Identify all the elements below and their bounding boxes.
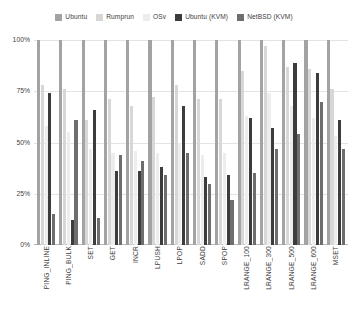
bar[interactable] [230, 200, 233, 245]
bar-group [236, 40, 258, 245]
legend-item[interactable]: Ubuntu [55, 13, 87, 21]
bar-group [57, 40, 79, 245]
bar[interactable] [312, 118, 315, 245]
bar[interactable] [48, 93, 51, 245]
bar[interactable] [82, 40, 85, 245]
bar[interactable] [93, 110, 96, 245]
x-axis-tick-label: LRANGE_100 [243, 246, 250, 290]
bar[interactable] [253, 173, 256, 245]
bar[interactable] [164, 175, 167, 245]
bar[interactable] [175, 85, 178, 245]
bar[interactable] [208, 184, 211, 246]
bar[interactable] [74, 120, 77, 245]
legend-swatch-icon [175, 14, 182, 21]
bar[interactable] [293, 63, 296, 245]
bar[interactable] [297, 134, 300, 245]
bar[interactable] [89, 149, 92, 245]
legend-item[interactable]: NetBSD (KVM) [237, 13, 293, 21]
legend-item[interactable]: OSv [143, 13, 166, 21]
bar[interactable] [201, 155, 204, 245]
bar[interactable] [264, 46, 267, 245]
bar-group [35, 40, 57, 245]
x-axis-tick-label: GET [109, 246, 116, 260]
bar[interactable] [215, 40, 218, 245]
bar[interactable] [316, 73, 319, 245]
bar-group [258, 40, 280, 245]
x-axis-tick: LRANGE_100 [236, 246, 258, 313]
x-axis-tick-label: PING_INLINE [43, 246, 50, 289]
bar[interactable] [178, 143, 181, 246]
legend-swatch-icon [55, 14, 62, 21]
x-axis-tick: LPUSH [146, 246, 168, 313]
bar[interactable] [71, 220, 74, 245]
bar[interactable] [223, 153, 226, 245]
bar[interactable] [52, 214, 55, 245]
bar[interactable] [130, 106, 133, 245]
bar[interactable] [152, 97, 155, 245]
bar-group [124, 40, 146, 245]
bar[interactable] [286, 67, 289, 245]
bar-groups [34, 40, 348, 245]
legend-item[interactable]: Ubuntu (KVM) [175, 13, 228, 21]
bar[interactable] [308, 69, 311, 245]
bar[interactable] [320, 102, 323, 246]
bar[interactable] [134, 151, 137, 245]
bar[interactable] [245, 116, 248, 245]
bar[interactable] [267, 93, 270, 245]
bar[interactable] [271, 128, 274, 245]
chart-legend: UbuntuRumprunOSvUbuntu (KVM)NetBSD (KVM) [0, 13, 348, 21]
bar[interactable] [104, 40, 107, 245]
bar[interactable] [182, 106, 185, 245]
bar[interactable] [197, 99, 200, 245]
x-axis-tick-label: MSET [332, 246, 339, 265]
bar[interactable] [304, 40, 307, 245]
bar[interactable] [59, 40, 62, 245]
bar-chart: UbuntuRumprunOSvUbuntu (KVM)NetBSD (KVM)… [0, 0, 348, 313]
legend-swatch-icon [96, 14, 103, 21]
bar[interactable] [342, 149, 345, 245]
bar[interactable] [111, 153, 114, 245]
bar[interactable] [238, 40, 241, 245]
bar[interactable] [186, 153, 189, 245]
bar[interactable] [37, 40, 40, 245]
x-axis-tick-label: LRANGE_500 [288, 246, 295, 290]
bar[interactable] [119, 155, 122, 245]
bar[interactable] [260, 40, 263, 245]
bar[interactable] [338, 120, 341, 245]
bar[interactable] [148, 40, 151, 245]
bar[interactable] [327, 40, 330, 245]
bar[interactable] [171, 40, 174, 245]
bar[interactable] [126, 40, 129, 245]
bar-group [191, 40, 213, 245]
bar[interactable] [115, 171, 118, 245]
bar[interactable] [330, 89, 333, 245]
bar[interactable] [108, 99, 111, 245]
x-axis-tick: SET [80, 246, 102, 313]
bar[interactable] [204, 177, 207, 245]
bar[interactable] [67, 132, 70, 245]
bar[interactable] [63, 89, 66, 245]
legend-swatch-icon [143, 14, 150, 21]
legend-item[interactable]: Rumprun [96, 13, 134, 21]
bar[interactable] [156, 153, 159, 245]
bar[interactable] [275, 149, 278, 245]
bar[interactable] [249, 118, 252, 245]
bar[interactable] [193, 40, 196, 245]
x-axis-tick-label: SADD [199, 246, 206, 265]
bar[interactable] [41, 85, 44, 245]
bar[interactable] [282, 40, 285, 245]
x-axis-tick: GET [102, 246, 124, 313]
bar[interactable] [138, 171, 141, 245]
legend-swatch-icon [237, 14, 244, 21]
bar[interactable] [141, 161, 144, 245]
bar[interactable] [160, 167, 163, 245]
bar[interactable] [334, 136, 337, 245]
bar[interactable] [241, 71, 244, 245]
bar[interactable] [290, 106, 293, 245]
plot-area: 0%25%50%75%100% [0, 40, 348, 245]
bar[interactable] [219, 99, 222, 245]
bar[interactable] [45, 126, 48, 245]
bar[interactable] [227, 175, 230, 245]
bar[interactable] [97, 218, 100, 245]
bar[interactable] [85, 120, 88, 245]
